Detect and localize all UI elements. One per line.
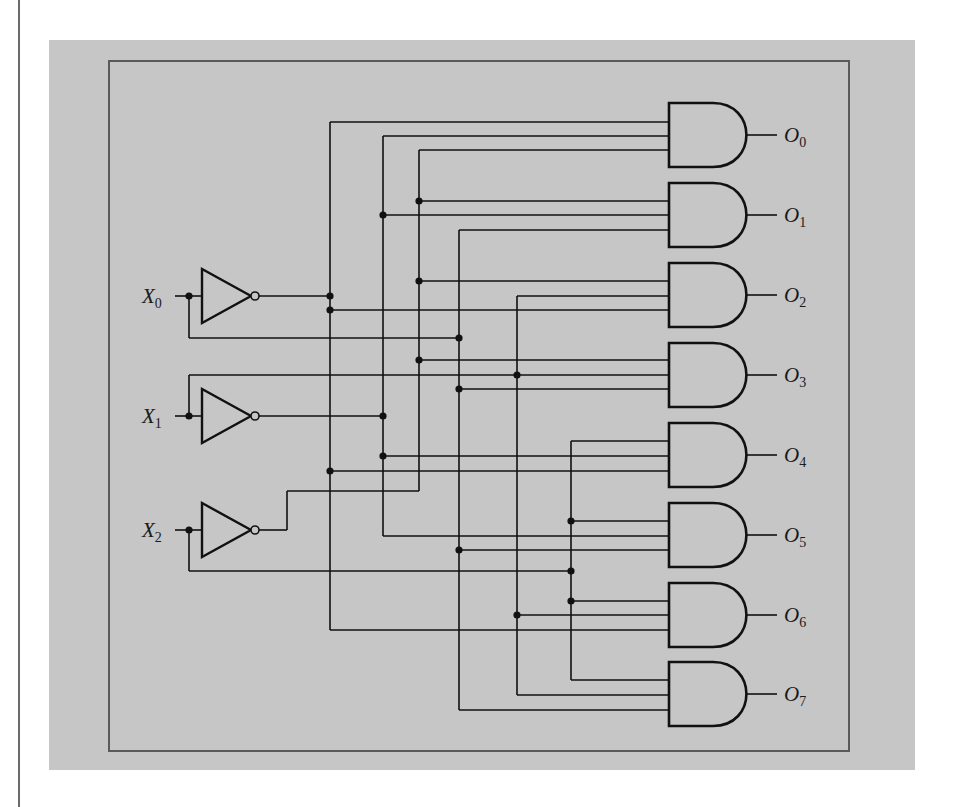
inversion-bubble-icon: [251, 526, 259, 534]
junction-dot: [185, 292, 192, 299]
and-gate-body-icon: [669, 103, 746, 167]
inversion-bubble-icon: [251, 292, 259, 300]
and-gate-body-icon: [669, 183, 746, 247]
junction-dot: [415, 197, 422, 204]
junction-dot: [455, 385, 462, 392]
decoder-circuit: X0X1X2O0O1O2O3O4O5O6O7: [0, 0, 969, 807]
input-label-x1: X1: [141, 404, 162, 431]
labels: X0X1X2O0O1O2O3O4O5O6O7: [141, 123, 806, 709]
inverter-x2: [202, 503, 259, 557]
and-gate-o7: [669, 662, 777, 726]
junction-dot: [567, 517, 574, 524]
junction-dot: [415, 277, 422, 284]
output-label-o4: O4: [784, 443, 806, 470]
output-label-o0: O0: [784, 123, 806, 150]
output-label-o1: O1: [784, 203, 806, 230]
and-gates: [669, 103, 777, 726]
output-label-o7: O7: [784, 682, 806, 709]
inverters: [202, 269, 259, 557]
inverter-x1: [202, 389, 259, 443]
input-label-x0: X0: [141, 284, 162, 311]
junction-dot: [185, 526, 192, 533]
and-gate-o3: [669, 343, 777, 407]
junction-dot: [513, 371, 520, 378]
junction-dot: [185, 412, 192, 419]
junction-dot: [455, 334, 462, 341]
output-label-o3: O3: [784, 363, 806, 390]
output-label-o5: O5: [784, 523, 806, 550]
not-gate-triangle-icon: [202, 269, 251, 323]
and-gate-body-icon: [669, 343, 746, 407]
junction-dot: [513, 611, 520, 618]
junction-dot: [326, 306, 333, 313]
output-label-o2: O2: [784, 283, 806, 310]
and-gate-o6: [669, 583, 777, 647]
and-gate-o5: [669, 503, 777, 567]
junction-dot: [455, 546, 462, 553]
and-gate-o1: [669, 183, 777, 247]
and-gate-body-icon: [669, 503, 746, 567]
junction-dot: [567, 567, 574, 574]
junction-dot: [379, 412, 386, 419]
and-gate-body-icon: [669, 583, 746, 647]
junction-dot: [379, 452, 386, 459]
and-gate-o4: [669, 423, 777, 487]
junction-dot: [415, 356, 422, 363]
inversion-bubble-icon: [251, 412, 259, 420]
not-gate-triangle-icon: [202, 503, 251, 557]
not-gate-triangle-icon: [202, 389, 251, 443]
input-label-x2: X2: [141, 518, 162, 545]
junction-dot: [379, 211, 386, 218]
and-gate-o0: [669, 103, 777, 167]
junction-dot: [567, 597, 574, 604]
and-gate-body-icon: [669, 263, 746, 327]
inverter-x0: [202, 269, 259, 323]
and-gate-o2: [669, 263, 777, 327]
junction-dot: [326, 292, 333, 299]
output-label-o6: O6: [784, 603, 806, 630]
and-gate-body-icon: [669, 662, 746, 726]
and-gate-body-icon: [669, 423, 746, 487]
junction-dot: [326, 467, 333, 474]
